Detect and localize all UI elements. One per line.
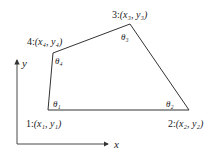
x-axis-label: x [113, 138, 119, 150]
node-label-1: 1:(x₁, y₁) [26, 118, 62, 130]
node-coords-2: (x₂, y₂) [176, 118, 204, 130]
node-label-3: 3:(x₃, y₃) [112, 9, 148, 21]
node-number-2: 2: [168, 118, 176, 129]
quadrilateral-diagram: y x θ₁ θ₂ θ₃ θ₄ 1:(x₁, y₁) 2:(x₂, y₂) 3:… [0, 0, 220, 160]
node-coords-4: (x₄, y₄) [35, 36, 63, 48]
y-axis-label: y [21, 57, 27, 69]
node-label-4: 4:(x₄, y₄) [27, 36, 63, 48]
node-coords-3: (x₃, y₃) [120, 9, 148, 21]
angle-label-3: θ₃ [121, 32, 129, 42]
diagram-svg: y x θ₁ θ₂ θ₃ θ₄ 1:(x₁, y₁) 2:(x₂, y₂) 3:… [0, 0, 220, 160]
node-number-1: 1: [26, 118, 34, 129]
quadrilateral-element [48, 24, 189, 110]
node-label-2: 2:(x₂, y₂) [168, 118, 204, 130]
angle-label-4: θ₄ [55, 56, 63, 66]
node-coords-1: (x₁, y₁) [34, 118, 62, 130]
angle-label-1: θ₁ [53, 99, 61, 109]
angle-label-2: θ₂ [166, 99, 174, 109]
node-number-4: 4: [27, 36, 35, 47]
node-number-3: 3: [112, 9, 120, 20]
